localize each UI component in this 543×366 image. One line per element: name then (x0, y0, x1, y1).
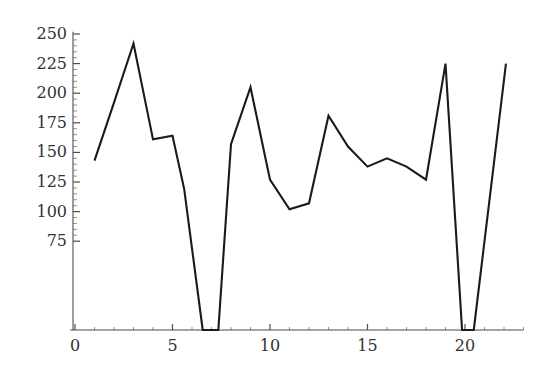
y-axis-tick-label: 150 (36, 144, 67, 160)
y-axis-tick-label: 125 (36, 174, 67, 190)
major-ticks-group (73, 34, 465, 330)
y-axis-tick-label: 75 (47, 233, 67, 249)
x-axis-tick-label: 10 (250, 338, 290, 354)
axes-group (70, 32, 523, 330)
data-line-series-1 (95, 43, 506, 330)
x-axis-tick-label: 5 (153, 338, 193, 354)
y-axis-tick-label: 250 (36, 26, 67, 42)
chart-container: 75100125150175200225250 05101520 (0, 0, 543, 366)
y-axis-tick-label: 175 (36, 115, 67, 131)
y-axis-tick-label: 225 (36, 56, 67, 72)
x-axis-tick-label: 20 (445, 338, 485, 354)
x-axis-tick-label: 15 (348, 338, 388, 354)
data-series-group (95, 43, 506, 330)
line-chart-plot (0, 0, 543, 366)
x-axis-tick-label: 0 (55, 338, 95, 354)
y-axis-tick-label: 200 (36, 85, 67, 101)
y-axis-tick-label: 100 (36, 204, 67, 220)
